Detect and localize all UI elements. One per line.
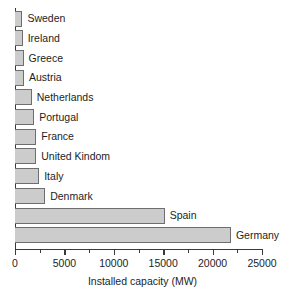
bar-category-label: Netherlands [37, 92, 94, 103]
bar [15, 227, 231, 243]
x-tick-minor [139, 249, 140, 253]
bar [15, 109, 34, 125]
x-tick-minor [40, 249, 41, 253]
bar [15, 89, 32, 105]
bar [15, 50, 24, 66]
bar [15, 148, 36, 164]
bar-row: Ireland [15, 30, 60, 47]
x-tick-major [163, 249, 164, 255]
x-tick-major [64, 249, 65, 255]
bar [15, 208, 165, 224]
bar [15, 30, 23, 46]
x-tick-major [213, 249, 214, 255]
bar-category-label: Sweden [27, 13, 65, 24]
bar-category-label: France [41, 131, 74, 142]
x-tick-major [15, 249, 16, 255]
bar [15, 188, 45, 204]
bar-row: Austria [15, 69, 62, 86]
bar [15, 168, 39, 184]
bar-category-label: Greece [29, 53, 63, 64]
x-tick-label: 25000 [247, 258, 276, 269]
x-tick-major [262, 249, 263, 255]
bar-chart: SwedenIrelandGreeceAustriaNetherlandsPor… [0, 0, 301, 295]
bar [15, 70, 24, 86]
bar-row: Germany [15, 227, 279, 244]
x-axis-title-text: Installed capacity (MW) [88, 275, 197, 287]
x-tick-label: 5000 [53, 258, 76, 269]
bar [15, 129, 36, 145]
x-tick-minor [89, 249, 90, 253]
bar-category-label: Portugal [39, 112, 78, 123]
bar-category-label: Italy [44, 171, 63, 182]
x-tick-label: 10000 [99, 258, 128, 269]
bar-row: Portugal [15, 109, 78, 126]
bar-row: Italy [15, 168, 63, 185]
bar-row: Denmark [15, 187, 93, 204]
bar-row: Greece [15, 49, 63, 66]
x-tick-major [114, 249, 115, 255]
x-tick-minor [188, 249, 189, 253]
bar-category-label: Austria [29, 72, 62, 83]
bar-category-label: United Kindom [41, 151, 110, 162]
x-tick-label: 15000 [149, 258, 178, 269]
bar-category-label: Spain [170, 210, 197, 221]
bar-row: France [15, 128, 74, 145]
bar-row: Netherlands [15, 89, 93, 106]
bar-row: Sweden [15, 10, 65, 27]
bar-category-label: Germany [236, 230, 279, 241]
x-tick-minor [237, 249, 238, 253]
bar-row: Spain [15, 207, 197, 224]
bar-row: United Kindom [15, 148, 110, 165]
bar-category-label: Denmark [50, 191, 93, 202]
bar [15, 11, 22, 27]
x-tick-label: 20000 [198, 258, 227, 269]
x-tick-label: 0 [12, 258, 18, 269]
bar-category-label: Ireland [28, 33, 60, 44]
x-axis-title: Installed capacity (MW) [0, 275, 301, 287]
